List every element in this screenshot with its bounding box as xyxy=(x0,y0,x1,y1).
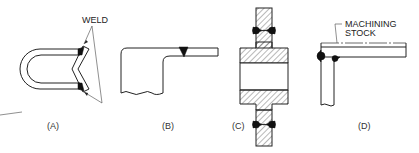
panel-b: (B) xyxy=(121,47,218,131)
caption-a: (A) xyxy=(47,121,59,131)
weld-bead-bottom xyxy=(78,83,84,91)
arrowhead-icon xyxy=(84,92,88,96)
caption-c: (C) xyxy=(232,121,245,131)
panel-c: (C) xyxy=(232,8,288,146)
panel-a: WELD (A) xyxy=(0,15,109,131)
weld-joint-diagram: WELD (A) (B) (C) xyxy=(0,0,419,153)
machining-stock-label: MACHINING STOCK xyxy=(345,19,399,38)
leader-line xyxy=(335,24,342,43)
weld-bead-top xyxy=(78,47,84,55)
leader-line xyxy=(84,26,92,44)
caption-b: (B) xyxy=(162,121,174,131)
caption-d: (D) xyxy=(358,121,371,131)
panel-d: MACHINING STOCK (D) xyxy=(317,19,406,131)
leader-line xyxy=(92,26,102,103)
weld-label: WELD xyxy=(82,15,109,25)
